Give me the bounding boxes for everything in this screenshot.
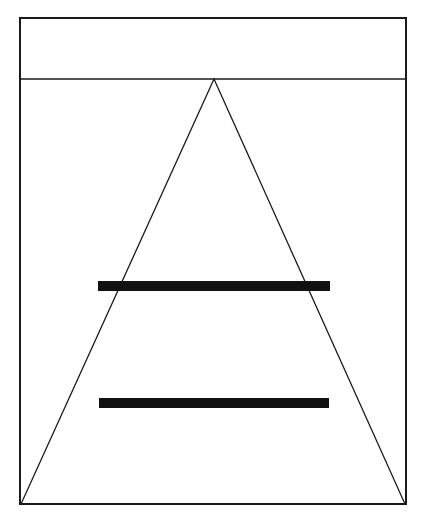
- background: [0, 0, 425, 521]
- pyramid-diagram: [0, 0, 425, 521]
- lower-bar: [99, 398, 329, 408]
- upper-bar: [98, 281, 330, 291]
